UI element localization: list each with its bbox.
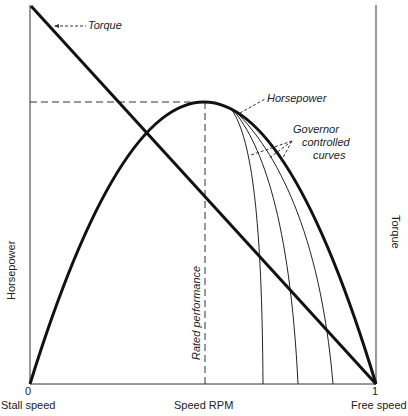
x-tick-0: 0 — [25, 385, 31, 397]
free-speed-label: Free speed — [351, 399, 407, 411]
horsepower-annotation: Horsepower — [267, 92, 326, 104]
rated-performance-label: Rated performance — [190, 266, 202, 360]
x-axis-label: Speed RPM — [174, 399, 233, 411]
x-tick-1: 1 — [372, 385, 378, 397]
torque-annotation: Torque — [88, 19, 122, 31]
governor-annotation-line1: Governor — [293, 123, 339, 135]
torque-arrowhead-icon — [54, 24, 59, 28]
y-axis-right-label: Torque — [390, 215, 402, 249]
governor-curve-2 — [234, 111, 298, 384]
governor-curve-1 — [232, 110, 263, 384]
governor-annotation-line2: controlled — [302, 136, 350, 148]
governor-annotation-line3: curves — [313, 149, 345, 161]
torque-line — [31, 6, 376, 384]
y-axis-left-label: Horsepower — [5, 241, 17, 300]
diagram-canvas — [0, 0, 408, 416]
stall-speed-label: Stall speed — [1, 399, 55, 411]
horsepower-leader — [240, 99, 265, 113]
